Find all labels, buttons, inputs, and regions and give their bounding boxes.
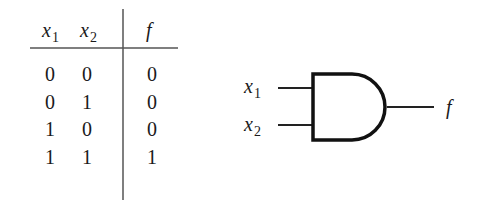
row-1-x1: 0 [38, 92, 62, 112]
header-f: f [146, 20, 152, 40]
row-1-x2: 1 [75, 92, 99, 112]
row-0-x1: 0 [38, 64, 62, 84]
row-3-f: 1 [140, 147, 164, 167]
header-x1: x1 [42, 20, 59, 43]
row-0-x2: 0 [75, 64, 99, 84]
row-3-x2: 1 [75, 147, 99, 167]
row-2-x1: 1 [38, 119, 62, 139]
row-1-f: 0 [140, 92, 164, 112]
row-3-x1: 1 [38, 147, 62, 167]
diagram-lines [0, 0, 486, 209]
gate-input-label-x2: x2 [244, 114, 261, 137]
header-x2: x2 [80, 20, 97, 43]
row-2-x2: 0 [75, 119, 99, 139]
gate-input-label-x1: x1 [244, 76, 261, 99]
row-2-f: 0 [140, 119, 164, 139]
gate-output-label-f: f [446, 97, 452, 117]
row-0-f: 0 [140, 64, 164, 84]
and-gate-body [313, 74, 385, 140]
